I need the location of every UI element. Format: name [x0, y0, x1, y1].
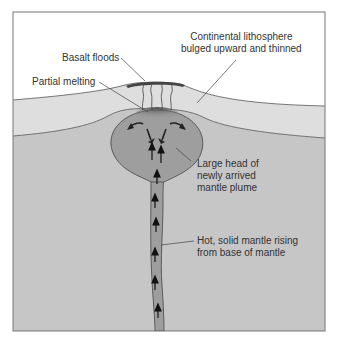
label-plume-tail-line2: from base of mantle — [197, 247, 298, 259]
label-basalt-floods: Basalt floods — [62, 52, 119, 64]
label-plume-tail-line1: Hot, solid mantle rising — [197, 235, 298, 247]
label-lithosphere-line1: Continental lithosphere — [181, 31, 302, 43]
label-lithosphere: Continental lithosphere bulged upward an… — [181, 31, 302, 55]
label-plume-head-line2: newly arrived — [197, 170, 259, 182]
partial-melting-zone — [135, 107, 179, 121]
label-plume-tail: Hot, solid mantle rising from base of ma… — [197, 235, 298, 259]
label-partial-melting: Partial melting — [32, 76, 95, 88]
label-plume-head-line3: mantle plume — [197, 182, 259, 194]
label-plume-head-line1: Large head of — [197, 158, 259, 170]
label-plume-head: Large head of newly arrived mantle plume — [197, 158, 259, 194]
label-lithosphere-line2: bulged upward and thinned — [181, 43, 302, 55]
